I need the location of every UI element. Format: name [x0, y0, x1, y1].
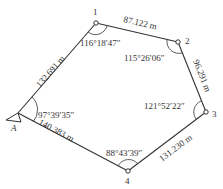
leg-3-4	[128, 112, 206, 171]
angle-label-A: 97°39′35″	[38, 110, 75, 120]
point-label-4: 4	[125, 176, 130, 186]
point-label-3: 3	[212, 109, 217, 119]
triangle-marker-icon	[6, 113, 21, 122]
traverse-svg: 1 2 3 4 A 132.691 m 87.122 m 96.291 m 13…	[0, 0, 223, 189]
angle-label-4: 88°43′39″	[106, 148, 143, 158]
distance-label-A-1: 132.691 m	[34, 54, 67, 90]
angle-label-2: 115°26′06″	[124, 53, 165, 63]
station-circle-icon	[176, 40, 180, 44]
angle-label-3: 121°52′22″	[144, 101, 185, 111]
traverse-diagram: 1 2 3 4 A 132.691 m 87.122 m 96.291 m 13…	[0, 0, 223, 189]
distance-label-1-2: 87.122 m	[123, 14, 158, 31]
point-label-2: 2	[185, 36, 190, 46]
angle-arc-1	[88, 26, 107, 35]
angle-arc-A	[32, 97, 38, 122]
leg-4-A	[18, 113, 128, 171]
station-circle-icon	[204, 110, 208, 114]
angle-label-1: 116°18′47″	[80, 38, 121, 48]
station-circle-icon	[126, 169, 130, 173]
point-label-A: A	[10, 123, 17, 133]
distance-label-3-4: 131.230 m	[157, 132, 194, 163]
point-label-1: 1	[93, 7, 98, 17]
distance-label-4-A: 140.383 m	[37, 117, 76, 144]
distance-label-2-3: 96.291 m	[191, 58, 213, 93]
station-circle-icon	[94, 21, 98, 25]
